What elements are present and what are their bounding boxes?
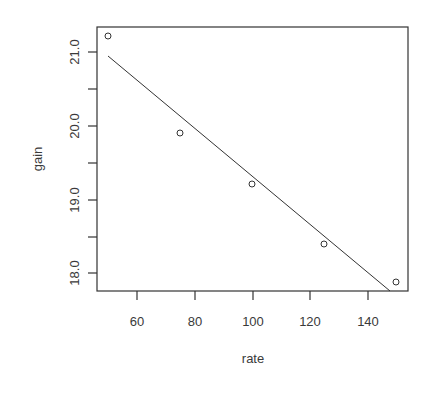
x-tick-label: 120 bbox=[299, 314, 321, 329]
x-tick-label: 80 bbox=[188, 314, 202, 329]
x-tick-label: 60 bbox=[130, 314, 144, 329]
chart-canvas: 21.0 20.0 19.0 18.0 60 80 100 120 140 ra… bbox=[0, 0, 433, 394]
x-axis-label: rate bbox=[242, 351, 264, 366]
data-point bbox=[177, 130, 183, 136]
y-tick-label: 19.0 bbox=[67, 187, 82, 212]
y-tick-label: 21.0 bbox=[67, 39, 82, 64]
regression-line bbox=[108, 56, 390, 291]
data-points bbox=[105, 33, 399, 285]
x-axis bbox=[137, 291, 368, 300]
data-point bbox=[249, 181, 255, 187]
y-tick-label: 20.0 bbox=[67, 113, 82, 138]
x-tick-label: 140 bbox=[357, 314, 379, 329]
x-tick-label: 100 bbox=[242, 314, 264, 329]
y-tick-label: 18.0 bbox=[67, 260, 82, 285]
y-axis-label: gain bbox=[30, 147, 45, 172]
data-point bbox=[321, 241, 327, 247]
data-point bbox=[393, 279, 399, 285]
y-axis bbox=[88, 52, 97, 273]
data-point bbox=[105, 33, 111, 39]
plot-frame bbox=[97, 27, 408, 291]
